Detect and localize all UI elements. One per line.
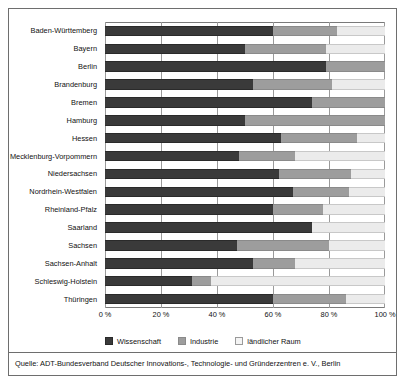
bar-segment[interactable]	[312, 222, 385, 233]
bar-segment[interactable]	[281, 133, 357, 144]
bar-row[interactable]	[105, 294, 385, 305]
bar-segment[interactable]	[105, 97, 312, 108]
bar-row[interactable]	[105, 115, 385, 126]
category-label: Bremen	[71, 98, 97, 107]
category-label: Sachsen-Anhalt	[45, 259, 97, 268]
legend-item[interactable]: ländlicher Raum	[235, 337, 300, 346]
category-label: Rheinland-Pfalz	[45, 205, 97, 214]
bar-segment[interactable]	[105, 187, 293, 198]
bar-segment[interactable]	[105, 204, 273, 215]
bar-segment[interactable]	[105, 222, 312, 233]
bar-segment[interactable]	[332, 79, 385, 90]
bar-row[interactable]	[105, 26, 385, 37]
bar-row[interactable]	[105, 79, 385, 90]
bar-segment[interactable]	[105, 61, 326, 72]
category-label: Mecklenburg-Vorpommern	[10, 152, 97, 161]
bar-segment[interactable]	[105, 258, 253, 269]
category-label: Baden-Württemberg	[30, 26, 97, 35]
bar-segment[interactable]	[346, 294, 385, 305]
category-axis-labels: Baden-WürttembergBayernBerlinBrandenburg…	[8, 22, 101, 308]
bar-segment[interactable]	[312, 97, 385, 108]
x-tick-label: 80 %	[321, 310, 338, 320]
category-label: Hamburg	[67, 116, 97, 125]
category-label: Sachsen	[68, 241, 97, 250]
bar-segment[interactable]	[323, 204, 385, 215]
bar-row[interactable]	[105, 222, 385, 233]
legend-swatch-icon	[178, 337, 186, 345]
bar-segment[interactable]	[105, 240, 237, 251]
bar-row[interactable]	[105, 187, 385, 198]
bar-row[interactable]	[105, 258, 385, 269]
category-label: Saarland	[67, 223, 97, 232]
plot-area-wrapper	[105, 22, 385, 308]
bar-segment[interactable]	[105, 79, 253, 90]
legend-label: ländlicher Raum	[247, 337, 300, 346]
category-label: Brandenburg	[54, 80, 97, 89]
legend-item[interactable]: Wissenschaft	[105, 337, 161, 346]
bar-segment[interactable]	[105, 115, 245, 126]
bar-segment[interactable]	[253, 258, 295, 269]
x-tick-label: 100 %	[375, 310, 396, 320]
x-tick-label: 20 %	[153, 310, 170, 320]
chart-legend: WissenschaftIndustrieländlicher Raum	[105, 334, 390, 348]
x-axis-tick-labels: 0 %20 %40 %60 %80 %100 %	[105, 310, 385, 322]
bar-row[interactable]	[105, 133, 385, 144]
legend-swatch-icon	[105, 337, 113, 345]
bar-row[interactable]	[105, 276, 385, 287]
legend-swatch-icon	[235, 337, 243, 345]
bar-segment[interactable]	[326, 44, 385, 55]
bar-segment[interactable]	[211, 276, 385, 287]
bar-row[interactable]	[105, 44, 385, 55]
legend-label: Industrie	[190, 337, 218, 346]
bar-segment[interactable]	[326, 61, 385, 72]
bar-segment[interactable]	[295, 258, 385, 269]
bar-segment[interactable]	[337, 26, 385, 37]
bar-segment[interactable]	[329, 240, 385, 251]
bar-segment[interactable]	[192, 276, 212, 287]
bar-segment[interactable]	[357, 133, 385, 144]
bar-rows	[105, 22, 385, 308]
bar-row[interactable]	[105, 169, 385, 180]
bar-segment[interactable]	[273, 294, 346, 305]
bar-segment[interactable]	[105, 151, 239, 162]
category-label: Nordrhein-Westfalen	[29, 187, 97, 196]
bar-row[interactable]	[105, 151, 385, 162]
legend-item[interactable]: Industrie	[178, 337, 218, 346]
category-label: Thüringen	[64, 295, 97, 304]
legend-label: Wissenschaft	[117, 337, 161, 346]
category-label: Bayern	[74, 44, 97, 53]
bar-segment[interactable]	[351, 169, 385, 180]
source-divider	[9, 352, 396, 353]
bar-row[interactable]	[105, 240, 385, 251]
bar-segment[interactable]	[105, 26, 273, 37]
bar-segment[interactable]	[293, 187, 349, 198]
bar-segment[interactable]	[245, 115, 385, 126]
bar-segment[interactable]	[105, 294, 273, 305]
category-label: Niedersachsen	[48, 169, 97, 178]
chart-figure: Baden-WürttembergBayernBerlinBrandenburg…	[0, 0, 405, 384]
x-tick-label: 60 %	[265, 310, 282, 320]
bar-segment[interactable]	[105, 44, 245, 55]
bar-segment[interactable]	[295, 151, 385, 162]
bar-row[interactable]	[105, 97, 385, 108]
category-label: Schleswig-Holstein	[35, 277, 97, 286]
x-tick-label: 0 %	[99, 310, 112, 320]
bar-segment[interactable]	[273, 26, 337, 37]
x-tick-label: 40 %	[209, 310, 226, 320]
bar-segment[interactable]	[105, 133, 281, 144]
bar-segment[interactable]	[349, 187, 385, 198]
bar-row[interactable]	[105, 204, 385, 215]
bar-segment[interactable]	[239, 151, 295, 162]
bar-segment[interactable]	[105, 169, 279, 180]
bar-segment[interactable]	[105, 276, 192, 287]
bar-row[interactable]	[105, 61, 385, 72]
category-label: Hessen	[72, 134, 97, 143]
bar-segment[interactable]	[245, 44, 326, 55]
bar-segment[interactable]	[279, 169, 352, 180]
source-note: Quelle: ADT-Bundesverband Deutscher Inno…	[15, 358, 393, 369]
bar-segment[interactable]	[253, 79, 331, 90]
bar-segment[interactable]	[273, 204, 323, 215]
bar-segment[interactable]	[237, 240, 329, 251]
category-label: Berlin	[78, 62, 97, 71]
